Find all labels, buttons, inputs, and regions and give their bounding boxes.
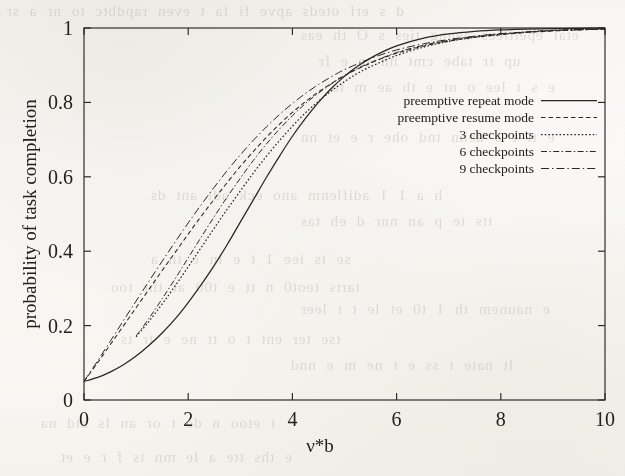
x-axis-ticks	[84, 28, 605, 400]
x-tick-label: 10	[595, 408, 615, 430]
x-tick-label: 4	[287, 408, 297, 430]
series-line-1	[84, 28, 605, 381]
legend-label-1: preemptive repeat mode	[404, 93, 534, 108]
chart-legend: preemptive repeat modepreemptive resume …	[398, 93, 597, 176]
figure: 0246810 00.20.40.60.81 preemptive repeat…	[0, 0, 625, 476]
series-line-5	[84, 29, 605, 381]
x-axis-title: ν*b	[306, 435, 334, 456]
y-tick-label: 0.6	[48, 166, 73, 188]
legend-label-2: preemptive resume mode	[398, 110, 534, 125]
y-tick-label: 1	[63, 17, 73, 39]
y-axis-title: probability of task completion	[19, 99, 40, 329]
y-tick-label: 0	[63, 389, 73, 411]
x-axis-tick-labels: 0246810	[79, 408, 615, 430]
y-tick-label: 0.8	[48, 91, 73, 113]
x-tick-label: 2	[183, 408, 193, 430]
series-line-2	[84, 29, 605, 381]
series-line-4	[136, 29, 605, 336]
legend-label-4: 6 checkpoints	[459, 144, 534, 159]
chart-plot: 0246810 00.20.40.60.81 preemptive repeat…	[0, 0, 625, 476]
y-axis-tick-labels: 00.20.40.60.81	[48, 17, 73, 411]
y-axis-ticks	[84, 28, 605, 400]
series-line-3	[136, 29, 605, 337]
data-series-group	[84, 28, 605, 381]
x-tick-label: 8	[496, 408, 506, 430]
legend-label-5: 9 checkpoints	[459, 161, 534, 176]
y-tick-label: 0.2	[48, 315, 73, 337]
plot-frame	[84, 28, 605, 400]
x-tick-label: 0	[79, 408, 89, 430]
legend-label-3: 3 checkpoints	[459, 127, 534, 142]
x-tick-label: 6	[392, 408, 402, 430]
y-tick-label: 0.4	[48, 240, 73, 262]
